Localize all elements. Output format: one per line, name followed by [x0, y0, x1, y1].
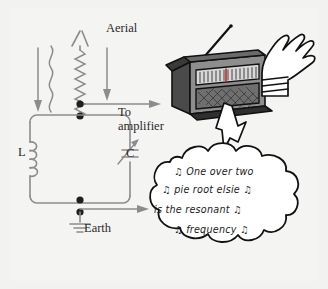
figure-illustration: Aerial To amplifier L C Earth [0, 0, 328, 289]
speech-bubble-text: ♫ One over two ♫ pie root elsie ♫ is the… [152, 163, 308, 247]
bubble-line: ♫ frequency ♫ [174, 225, 249, 235]
bubble-line: ♫ One over two [174, 167, 254, 177]
bubble-line: ♫ pie root elsie ♫ [162, 185, 252, 195]
bubble-line: is the resonant ♫ [154, 205, 242, 215]
